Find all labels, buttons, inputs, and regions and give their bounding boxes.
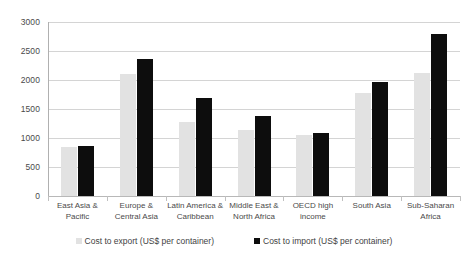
x-axis-category-label: South Asia: [342, 201, 401, 231]
bar-import: [196, 98, 212, 196]
y-axis-tick-label: 3000: [21, 17, 40, 27]
y-axis-tick-label: 1000: [21, 133, 40, 143]
bar-import: [78, 146, 94, 196]
chart-legend: Cost to export (US$ per container)Cost t…: [0, 236, 468, 246]
legend-item[interactable]: Cost to import (US$ per container): [254, 236, 392, 246]
bar-group: [48, 22, 107, 196]
bar-group: [166, 22, 225, 196]
y-axis-tick-label: 1500: [21, 104, 40, 114]
y-axis-tick-label: 2500: [21, 46, 40, 56]
bar-export: [355, 93, 371, 196]
bar-export: [414, 73, 430, 196]
y-axis-tick-label: 500: [26, 162, 40, 172]
y-axis-tick-labels: 050010001500200025003000: [0, 0, 44, 200]
x-axis-category-label: Latin America & Caribbean: [166, 201, 225, 231]
y-axis-tick-label: 0: [35, 191, 40, 201]
bar-import: [255, 116, 271, 196]
bar-export: [120, 74, 136, 196]
bar-group: [401, 22, 460, 196]
bar-group: [283, 22, 342, 196]
legend-swatch-icon: [76, 238, 82, 244]
bar-export: [179, 122, 195, 196]
bar-import: [431, 34, 447, 196]
bar-group: [342, 22, 401, 196]
y-axis-tick-label: 2000: [21, 75, 40, 85]
x-axis-category-label: Europe & Central Asia: [107, 201, 166, 231]
legend-label: Cost to export (US$ per container): [85, 236, 214, 246]
legend-label: Cost to import (US$ per container): [263, 236, 392, 246]
x-axis-category-label: Sub-Saharan Africa: [401, 201, 460, 231]
bar-import: [372, 82, 388, 196]
bar-group: [225, 22, 284, 196]
legend-swatch-icon: [254, 238, 260, 244]
x-axis-tick: [460, 196, 461, 201]
bar-groups: [48, 22, 460, 196]
bar-export: [296, 135, 312, 196]
plot-area: 050010001500200025003000 East Asia & Pac…: [0, 0, 468, 200]
x-axis-category-labels: East Asia & PacificEurope & Central Asia…: [48, 201, 460, 231]
x-axis-category-label: OECD high income: [283, 201, 342, 231]
x-axis-category-label: Middle East & North Africa: [225, 201, 284, 231]
legend-item[interactable]: Cost to export (US$ per container): [76, 236, 214, 246]
bar-group: [107, 22, 166, 196]
bar-export: [61, 147, 77, 196]
bar-export: [238, 130, 254, 196]
bar-chart: 050010001500200025003000 East Asia & Pac…: [0, 0, 468, 263]
x-axis-category-label: East Asia & Pacific: [48, 201, 107, 231]
bar-import: [137, 59, 153, 196]
bar-import: [313, 133, 329, 196]
